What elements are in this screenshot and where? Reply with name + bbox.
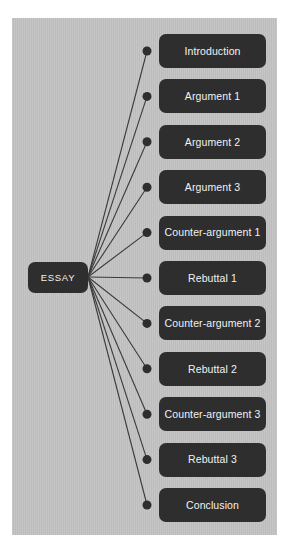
connector-dot: [143, 274, 152, 283]
node-box[interactable]: Argument 1: [159, 79, 266, 113]
node-label: Rebuttal 1: [188, 273, 237, 284]
edge-line: [88, 277, 147, 278]
connector-dot: [143, 92, 152, 101]
node-box[interactable]: Counter-argument 1: [159, 216, 266, 250]
node-box[interactable]: Counter-argument 3: [159, 397, 266, 431]
node-box[interactable]: Argument 2: [159, 125, 266, 159]
edge-line: [88, 187, 147, 277]
connector-dot: [143, 364, 152, 373]
node-label: Introduction: [184, 46, 240, 57]
connector-dot: [143, 228, 152, 237]
node-label: Argument 3: [185, 182, 240, 193]
node-box[interactable]: Counter-argument 2: [159, 306, 266, 340]
edge-line: [88, 51, 147, 277]
root-node-label: ESSAY: [41, 273, 75, 283]
edge-line: [88, 233, 147, 277]
edge-line: [88, 96, 147, 277]
edge-line: [88, 277, 147, 323]
node-box[interactable]: Introduction: [159, 34, 266, 68]
connector-dot: [143, 47, 152, 56]
node-label: Conclusion: [186, 500, 239, 511]
node-label: Counter-argument 2: [165, 318, 261, 329]
edge-line: [88, 277, 147, 505]
edge-line: [88, 277, 147, 414]
connector-dot: [143, 410, 152, 419]
node-box[interactable]: Conclusion: [159, 488, 266, 522]
node-box[interactable]: Rebuttal 1: [159, 261, 266, 295]
node-label: Argument 1: [185, 91, 240, 102]
node-box[interactable]: Rebuttal 2: [159, 352, 266, 386]
connector-dot: [143, 501, 152, 510]
edge-line: [88, 277, 147, 460]
edge-line: [88, 277, 147, 369]
node-box[interactable]: Argument 3: [159, 170, 266, 204]
connector-dot: [143, 137, 152, 146]
node-label: Rebuttal 3: [188, 454, 237, 465]
node-label: Rebuttal 2: [188, 364, 237, 375]
essay-structure-diagram: ESSAY IntroductionArgument 1Argument 2Ar…: [0, 0, 293, 551]
root-node-essay[interactable]: ESSAY: [28, 262, 88, 293]
connector-dot: [143, 455, 152, 464]
node-label: Argument 2: [185, 137, 240, 148]
node-label: Counter-argument 1: [165, 227, 261, 238]
node-box[interactable]: Rebuttal 3: [159, 443, 266, 477]
connector-dot: [143, 183, 152, 192]
node-label: Counter-argument 3: [165, 409, 261, 420]
connector-dot: [143, 319, 152, 328]
